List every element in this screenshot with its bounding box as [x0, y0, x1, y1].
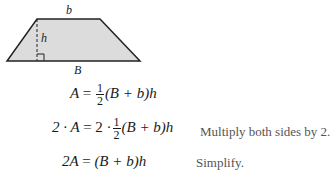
label-B: B — [74, 63, 82, 77]
trapezoid-figure: b h B — [0, 0, 145, 78]
label-h: h — [41, 31, 47, 45]
equation-1: A = 12(B + b)h — [70, 82, 157, 107]
equation-2: 2 · A = 2 ·12(B + b)h — [52, 116, 173, 141]
trapezoid-shape — [7, 19, 140, 61]
note-simplify: Simplify. — [196, 155, 244, 171]
note-multiply: Multiply both sides by 2. — [200, 124, 330, 140]
label-b: b — [66, 3, 72, 17]
fraction: 12 — [96, 82, 104, 107]
fraction: 12 — [113, 116, 121, 141]
equation-3: 2A = (B + b)h — [62, 153, 146, 170]
